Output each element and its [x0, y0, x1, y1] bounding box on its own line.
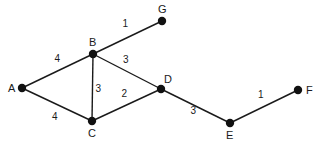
edge-weight-e-f: 1 [258, 89, 264, 100]
node-label-g: G [158, 3, 167, 15]
edge-e-f [230, 90, 298, 123]
node-label-d: D [164, 73, 172, 85]
edge-weight-b-g: 1 [123, 18, 129, 29]
node-label-c: C [88, 127, 96, 139]
node-label-f: F [306, 84, 313, 96]
edge-b-c [92, 54, 93, 121]
node-b [89, 50, 97, 58]
edge-weight-a-c: 4 [52, 111, 58, 122]
node-f [294, 86, 302, 94]
node-label-a: A [8, 82, 16, 94]
edges-group: 44331231 [22, 18, 298, 124]
edge-weight-b-c: 3 [96, 83, 102, 94]
node-label-e: E [226, 129, 233, 141]
edge-weight-a-b: 4 [55, 53, 61, 64]
graph-diagram: 44331231 ABCDEFG [0, 0, 315, 149]
node-d [157, 85, 165, 93]
edge-weight-c-d: 2 [122, 88, 128, 99]
node-e [226, 119, 234, 127]
edge-weight-d-e: 3 [191, 105, 197, 116]
node-label-b: B [89, 36, 96, 48]
node-g [158, 17, 166, 25]
edge-weight-b-d: 3 [123, 54, 129, 65]
node-c [88, 117, 96, 125]
node-a [18, 84, 26, 92]
